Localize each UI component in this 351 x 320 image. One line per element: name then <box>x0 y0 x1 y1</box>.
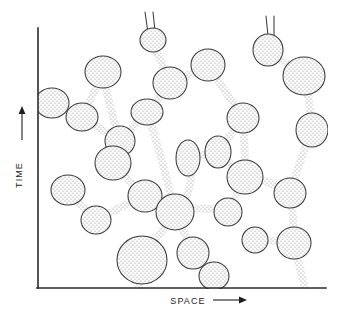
blob-lower-left-small <box>81 206 111 234</box>
right-arrow-icon <box>213 297 247 304</box>
blob-top-center-small <box>140 28 166 52</box>
x-axis-label-group: SPACE <box>170 296 247 306</box>
blob-mid-tall-oval <box>176 140 200 176</box>
blob-top-left-round <box>85 56 121 88</box>
blob-mid-left-oval <box>131 99 163 125</box>
y-axis-label: TIME <box>14 162 24 188</box>
blob-center-hub <box>156 194 194 230</box>
up-arrow-icon <box>19 106 26 140</box>
y-axis-label-group: TIME <box>14 106 25 188</box>
blob-right-center <box>227 160 263 194</box>
diagram-canvas: TIME SPACE <box>0 0 351 320</box>
blob-far-right-tail <box>253 34 283 66</box>
blob-bottom-center <box>177 237 209 269</box>
tail-top-right-left <box>266 16 268 36</box>
blob-left-edge-upper <box>35 88 69 118</box>
space-time-diagram: TIME SPACE <box>0 0 351 320</box>
blobs <box>35 28 328 290</box>
blob-far-right-mid <box>296 113 328 147</box>
blob-lower-left-round <box>51 175 85 205</box>
blob-bottom-right-pair <box>242 227 268 253</box>
blob-bottom-big <box>117 236 167 284</box>
blob-top-center-lower <box>153 67 187 99</box>
blob-top-right-of-center <box>191 49 225 81</box>
blob-upper-left-junction <box>66 103 98 131</box>
blob-bottom-right-lobe <box>199 262 229 290</box>
blob-right-lower <box>214 198 242 226</box>
blob-far-right-low <box>274 178 306 208</box>
blob-far-right-upper <box>283 57 325 95</box>
x-axis-label: SPACE <box>170 296 205 306</box>
blob-network <box>35 12 328 294</box>
blob-upper-right-round <box>227 103 259 133</box>
blob-center-left <box>95 146 131 180</box>
blob-far-right-bottom <box>277 227 311 259</box>
blob-mid-right-oval <box>205 136 231 168</box>
